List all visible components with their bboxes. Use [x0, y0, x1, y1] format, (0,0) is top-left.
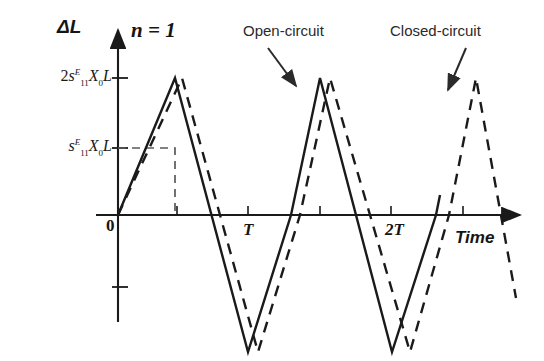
y-tick-label-upper: 2sE11X0L: [8, 67, 112, 88]
y-axis-title: ΔL: [57, 16, 81, 38]
origin-label: 0: [106, 216, 115, 236]
figure-displacement-vs-time: ΔL n = 1 2sE11X0L sE11X0L 0 T 2T Time Op…: [0, 0, 544, 361]
guide-line-s11: [118, 148, 175, 215]
label-open-circuit: Open-circuit: [243, 22, 324, 39]
plot-canvas: [0, 0, 544, 361]
label-closed-circuit: Closed-circuit: [390, 22, 481, 39]
y-tick-superscript-E: E: [75, 67, 81, 77]
y-tick-label-lower: sE11X0L: [22, 137, 112, 158]
y-tick-X-symbol-lower: X: [89, 137, 99, 154]
y-tick-superscript-E-lower: E: [75, 137, 81, 147]
y-tick-subscript-11-lower: 11: [80, 148, 89, 158]
x-tick-label-T: T: [243, 220, 253, 240]
y-tick-L-symbol-lower: L: [103, 137, 112, 154]
closed-circuit-arrow: [448, 48, 466, 90]
open-circuit-arrow: [268, 48, 296, 86]
x-tick-label-2T: 2T: [385, 220, 404, 240]
annotation-n-equals-1: n = 1: [131, 18, 176, 43]
y-tick-X-symbol: X: [89, 67, 99, 84]
y-tick-L-symbol: L: [103, 67, 112, 84]
y-tick-subscript-11: 11: [80, 78, 89, 88]
x-axis-title: Time: [455, 228, 494, 248]
